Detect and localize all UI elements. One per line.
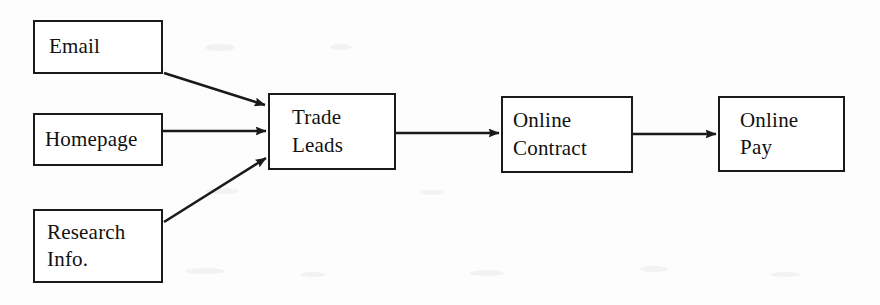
node-email-label-1: Email: [49, 33, 100, 60]
node-online-pay-label-2: Pay: [740, 134, 772, 161]
scan-artifact: [205, 188, 239, 194]
node-trade-leads[interactable]: Trade Leads: [268, 93, 396, 170]
node-research-info[interactable]: Research Info.: [33, 209, 163, 283]
node-online-pay[interactable]: Online Pay: [718, 96, 845, 172]
node-online-pay-label-1: Online: [740, 107, 798, 134]
node-homepage-label-1: Homepage: [45, 126, 138, 153]
node-email[interactable]: Email: [33, 20, 163, 74]
edge-email-to-trade-leads: [164, 73, 265, 105]
node-research-info-label-2: Info.: [47, 246, 88, 273]
scan-artifact: [300, 272, 326, 277]
scan-artifact: [185, 268, 225, 274]
node-online-contract-label-2: Contract: [513, 135, 587, 162]
node-homepage[interactable]: Homepage: [33, 113, 163, 166]
node-online-contract[interactable]: Online Contract: [501, 96, 633, 173]
diagram-canvas: Email Homepage Research Info. Trade Lead…: [0, 0, 880, 305]
node-online-contract-label-1: Online: [513, 107, 571, 134]
scan-artifact: [330, 44, 352, 50]
scan-artifact: [640, 266, 668, 272]
node-research-info-label-1: Research: [47, 219, 126, 246]
node-trade-leads-label-1: Trade: [292, 104, 341, 131]
scan-artifact: [470, 270, 504, 276]
node-trade-leads-label-2: Leads: [292, 132, 343, 159]
scan-artifact: [770, 272, 800, 277]
scan-artifact: [205, 44, 235, 51]
scan-artifact: [420, 190, 444, 195]
